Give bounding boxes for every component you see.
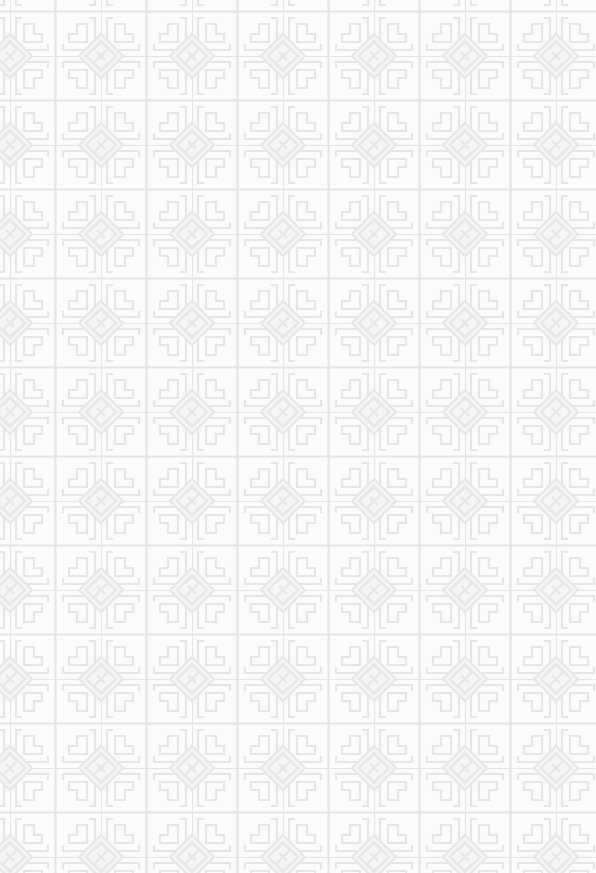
lattice-pattern-svg — [0, 0, 596, 873]
lattice-pattern-background: Chinese lattice fretwork pattern with di… — [0, 0, 596, 873]
